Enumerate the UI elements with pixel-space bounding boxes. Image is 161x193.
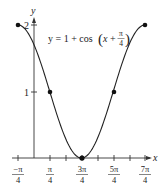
x-tick-5pi-4: 5π 4 <box>108 164 120 185</box>
point-7pi-4 <box>143 23 148 28</box>
svg-text:3π: 3π <box>78 164 87 174</box>
svg-text:4: 4 <box>112 175 117 185</box>
svg-text:7π: 7π <box>141 164 150 174</box>
y-axis-label: y <box>30 5 36 16</box>
equation-prefix: y = 1 + cos <box>48 33 93 44</box>
x-tick-neg-pi-4: −π 4 <box>12 164 24 185</box>
svg-text:4: 4 <box>143 175 148 185</box>
x-axis-arrow-icon <box>146 156 152 160</box>
equation-arg-x: x <box>102 33 108 44</box>
point-neg-pi-4 <box>16 23 21 28</box>
equation-frac-num: π <box>119 29 123 38</box>
svg-text:4: 4 <box>80 175 85 185</box>
svg-text:4: 4 <box>16 175 21 185</box>
svg-text:4: 4 <box>48 175 53 185</box>
equation-close-paren: ) <box>125 31 130 48</box>
equation-label: y = 1 + cos ( x + π 4 ) <box>48 29 130 48</box>
x-tick-pi-4: π 4 <box>46 164 54 185</box>
x-tick-3pi-4: 3π 4 <box>76 164 88 185</box>
point-3pi-4 <box>79 155 84 160</box>
equation-frac-den: 4 <box>119 39 123 48</box>
chart: x y 1 2 −π 4 π 4 3π 4 <box>0 0 161 193</box>
y-axis-arrow-icon <box>32 17 36 23</box>
x-tick-7pi-4: 7π 4 <box>139 164 151 185</box>
svg-text:π: π <box>48 164 53 174</box>
x-axis-label: x <box>152 152 158 163</box>
svg-text:5π: 5π <box>110 164 119 174</box>
y-tick-label-1: 1 <box>24 87 29 98</box>
x-tick-labels: −π 4 π 4 3π 4 5π 4 7π 4 <box>12 164 151 185</box>
svg-text:−π: −π <box>13 164 23 174</box>
point-pi-4 <box>48 90 53 95</box>
equation-plus: + <box>110 33 116 44</box>
point-5pi-4 <box>112 90 117 95</box>
